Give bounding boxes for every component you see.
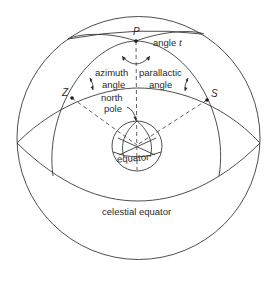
point-z-marker	[70, 96, 74, 100]
north-pole-arrowhead	[134, 117, 137, 122]
point-z-label: Z	[61, 87, 69, 98]
pole-axis-dashed	[136, 41, 137, 170]
angle-t-label: angle t	[153, 37, 182, 48]
point-p-label: P	[133, 26, 140, 37]
point-s-label: S	[211, 88, 218, 99]
azimuth-label-line1: azimuth	[95, 67, 128, 78]
celestial-sphere-diagram: P Z S angle t azimuth angle parallactic …	[0, 0, 273, 281]
point-p-marker	[134, 39, 138, 43]
parallactic-label-line1: parallactic	[139, 67, 182, 78]
parallactic-label-line2: angle	[149, 79, 172, 90]
equator-label: equator	[117, 151, 150, 164]
north-pole-label-line1: north	[101, 92, 123, 103]
azimuth-label-line2: angle	[102, 79, 125, 90]
azimuth-arrow-down	[91, 86, 94, 90]
hour-angle-arc-left	[68, 34, 136, 41]
angle-t-arrow-left	[122, 56, 126, 61]
star-radius-dashed	[137, 100, 207, 145]
north-pole-label-line2: pole	[104, 103, 122, 114]
parallactic-arrow-down	[185, 87, 188, 91]
zenith-star-arc	[17, 88, 260, 143]
angle-t-arrow-right	[146, 56, 150, 61]
celestial-equator-label: celestial equator	[102, 206, 171, 217]
point-s-marker	[205, 98, 209, 102]
